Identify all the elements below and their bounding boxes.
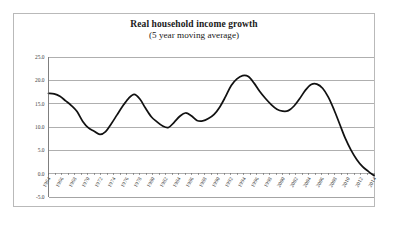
x-tick-label: 1990 (210, 176, 221, 188)
x-axis-tick-labels: 1964196619681970197219741976197819801982… (41, 176, 377, 188)
y-axis-tick-labels: 25.020.015.010.05.00.0-5.0 (35, 54, 45, 200)
screenshot-canvas: Real household income growth (5 year mov… (0, 0, 393, 228)
x-tick-label: 2014 (367, 176, 378, 188)
x-tick-label: 2008 (328, 176, 339, 188)
x-tick-label: 2012 (354, 176, 365, 188)
x-tick-label: 1984 (171, 176, 182, 188)
x-tick-label: 1992 (223, 176, 234, 188)
x-tick-label: 1974 (106, 176, 117, 188)
y-tick-label: 20.0 (35, 77, 45, 83)
y-tick-label: -5.0 (36, 194, 45, 200)
x-tick-label: 1986 (184, 176, 195, 188)
x-tick-label: 1980 (145, 176, 156, 188)
x-tick-label: 1976 (119, 176, 130, 188)
line-chart-svg: 25.020.015.010.05.00.0-5.0 1964196619681… (0, 0, 393, 228)
data-series-group (49, 75, 375, 175)
x-tick-label: 1972 (93, 176, 104, 188)
y-tick-label: 25.0 (35, 54, 45, 60)
x-tick-label: 1978 (132, 176, 143, 188)
x-tick-label: 2002 (288, 176, 299, 188)
x-tick-label: 1998 (262, 176, 273, 188)
x-tick-label: 1994 (236, 176, 247, 188)
income-growth-line (49, 75, 375, 175)
chart-plot-container: 25.020.015.010.05.00.0-5.0 1964196619681… (0, 0, 393, 228)
y-tick-label: 15.0 (35, 101, 45, 107)
x-tick-label: 1970 (80, 176, 91, 188)
x-tick-label: 1982 (158, 176, 169, 188)
y-tick-label: 5.0 (38, 147, 45, 153)
x-tick-label: 1996 (249, 176, 260, 188)
x-tick-label: 2000 (275, 176, 286, 188)
x-tick-label: 2004 (301, 176, 312, 188)
x-tick-label: 1966 (54, 176, 65, 188)
y-tick-label: 10.0 (35, 124, 45, 130)
x-tick-label: 2010 (341, 176, 352, 188)
x-tick-label: 2006 (314, 176, 325, 188)
x-tick-label: 1964 (41, 176, 52, 188)
y-tick-label: 0.0 (38, 171, 45, 177)
x-tick-label: 1988 (197, 176, 208, 188)
x-tick-label: 1968 (67, 176, 78, 188)
